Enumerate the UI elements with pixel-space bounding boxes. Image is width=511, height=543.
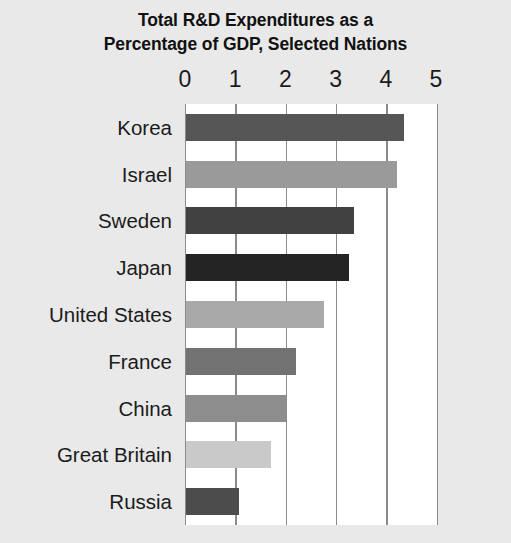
bars-layer [186, 104, 437, 525]
bar-sweden [186, 207, 354, 234]
category-label-israel: Israel [0, 161, 172, 188]
bar-united-states [186, 301, 324, 328]
page-title: Total R&D Expenditures as a Percentage o… [0, 8, 511, 56]
bar-korea [186, 114, 404, 141]
x-tick-label-4: 4 [366, 66, 406, 92]
x-tick-label-0: 0 [165, 66, 205, 92]
y-axis-category-labels: KoreaIsraelSwedenJapanUnited StatesFranc… [0, 104, 172, 525]
title-line-2: Percentage of GDP, Selected Nations [0, 32, 511, 56]
category-label-france: France [0, 348, 172, 375]
bar-israel [186, 161, 397, 188]
category-label-united-states: United States [0, 301, 172, 328]
category-label-korea: Korea [0, 114, 172, 141]
bar-japan [186, 254, 349, 281]
category-label-japan: Japan [0, 254, 172, 281]
x-tick-label-1: 1 [215, 66, 255, 92]
x-tick-label-5: 5 [416, 66, 456, 92]
x-axis-tick-labels: 012345 [185, 66, 436, 96]
bar-russia [186, 488, 239, 515]
x-tick-label-2: 2 [265, 66, 305, 92]
category-label-great-britain: Great Britain [0, 441, 172, 468]
category-label-russia: Russia [0, 488, 172, 515]
category-label-sweden: Sweden [0, 207, 172, 234]
bar-china [186, 395, 286, 422]
bar-france [186, 348, 296, 375]
category-label-china: China [0, 395, 172, 422]
plot-area [185, 104, 438, 525]
title-line-1: Total R&D Expenditures as a [0, 8, 511, 32]
bar-great-britain [186, 441, 271, 468]
x-tick-label-3: 3 [316, 66, 356, 92]
